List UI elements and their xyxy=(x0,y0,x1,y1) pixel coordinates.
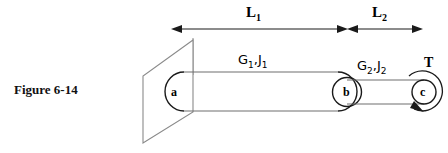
dimension-label-L1-sub: 1 xyxy=(256,12,261,23)
material-label-segment-1: G1,J1 xyxy=(238,52,268,70)
material-J2-sub: 2 xyxy=(381,66,387,76)
dimension-label-L2-text: L xyxy=(372,4,382,20)
torque-label-T: T xyxy=(424,55,433,71)
material-label-segment-2: G2,J2 xyxy=(357,58,387,76)
arrowhead-L2-right xyxy=(412,25,423,33)
fixed-wall xyxy=(143,40,193,143)
arrowhead-L1-left xyxy=(171,25,182,33)
arrowhead-L2-left xyxy=(347,25,358,33)
dimension-label-L1-text: L xyxy=(246,4,256,20)
dimension-line-L1 xyxy=(171,25,348,33)
material-G1: G xyxy=(238,52,248,67)
material-J1-sub: 1 xyxy=(262,60,268,70)
dimension-label-L2: L2 xyxy=(372,4,387,23)
dimension-label-L2-sub: 2 xyxy=(382,12,387,23)
figure-caption: Figure 6-14 xyxy=(14,82,78,98)
node-label-a: a xyxy=(171,85,177,100)
shaft-segment-1 xyxy=(165,72,357,111)
node-label-c: c xyxy=(420,85,425,100)
figure-container: Figure 6-14 L1 L2 G1,J1 G2,J2 a b c T xyxy=(0,0,448,153)
torque-arrow xyxy=(409,71,442,112)
dimension-line-L2 xyxy=(347,25,423,33)
arrowhead-L1-right xyxy=(337,25,348,33)
material-G2: G xyxy=(357,58,367,73)
dimension-label-L1: L1 xyxy=(246,4,261,23)
node-label-b: b xyxy=(343,85,350,100)
